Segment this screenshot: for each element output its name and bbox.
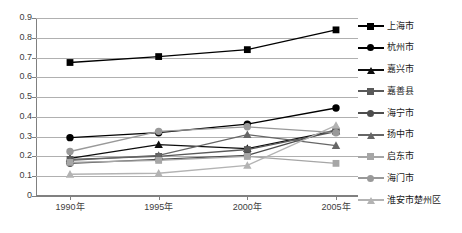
legend-label: 海门市: [387, 173, 414, 184]
legend-item-3[interactable]: 嘉兴市: [358, 64, 462, 76]
legend-marker-circle: [367, 44, 374, 51]
y-tick-label: 0.6: [2, 72, 32, 81]
data-point-marker: [66, 134, 73, 141]
y-tick-mark: [32, 196, 36, 197]
legend-label: 扬中市: [387, 129, 414, 140]
legend-label: 嘉善县: [387, 86, 414, 97]
y-tick-label: 0.8: [2, 33, 32, 42]
x-axis-tick-labels: 1990年1995年2000年2005年: [36, 200, 358, 216]
legend-item-5[interactable]: 海宁市: [358, 107, 462, 119]
data-point-marker: [244, 123, 251, 130]
legend-swatch: [358, 20, 384, 32]
series-3: [66, 127, 340, 162]
series-plot: [36, 18, 358, 196]
legend-label: 启东市: [387, 151, 414, 162]
legend-item-1[interactable]: 上海市: [358, 20, 462, 32]
y-tick-label: 0.3: [2, 132, 32, 141]
data-point-marker: [155, 157, 162, 164]
legend-marker-triangle: [367, 132, 375, 139]
legend-swatch: [358, 42, 384, 54]
legend-swatch: [358, 129, 384, 141]
y-tick-label: 0.5: [2, 92, 32, 101]
legend-item-2[interactable]: 杭州市: [358, 42, 462, 54]
legend-marker-circle: [367, 110, 374, 117]
legend-marker-circle: [367, 175, 374, 182]
legend-item-9[interactable]: 淮安市楚州区: [358, 194, 462, 206]
data-point-marker: [332, 121, 340, 129]
series-line: [70, 30, 336, 63]
data-point-marker: [67, 159, 74, 166]
legend-item-4[interactable]: 嘉善县: [358, 85, 462, 97]
y-tick-label: 0.9: [2, 13, 32, 22]
x-tick-label: 1995年: [129, 202, 189, 212]
series-7: [67, 153, 340, 167]
series-line: [70, 125, 336, 174]
x-tick-label: 2000年: [217, 202, 277, 212]
data-point-marker: [244, 46, 251, 53]
data-point-marker: [243, 130, 251, 138]
legend-swatch: [358, 85, 384, 97]
data-point-marker: [155, 53, 162, 60]
series-line: [70, 108, 336, 138]
legend-label: 嘉兴市: [387, 64, 414, 75]
series-1: [67, 26, 340, 65]
legend-marker-square: [367, 153, 374, 160]
data-point-marker: [333, 26, 340, 33]
legend-marker-square: [367, 88, 374, 95]
x-tick-label: 1990年: [40, 202, 100, 212]
legend-item-6[interactable]: 扬中市: [358, 129, 462, 141]
data-point-marker: [333, 160, 340, 167]
legend-item-7[interactable]: 启东市: [358, 151, 462, 163]
data-point-marker: [243, 161, 251, 169]
data-point-marker: [67, 59, 74, 66]
y-tick-label: 0.7: [2, 53, 32, 62]
y-axis-tick-labels: 0.90.80.70.60.50.40.30.20.10: [0, 18, 32, 196]
data-point-marker: [332, 129, 339, 136]
legend-marker-triangle: [367, 197, 375, 204]
series-2: [66, 104, 339, 141]
plot-area: [36, 18, 358, 196]
y-tick-label: 0.2: [2, 151, 32, 160]
data-point-marker: [66, 148, 73, 155]
legend: 上海市杭州市嘉兴市嘉善县海宁市扬中市启东市海门市淮安市楚州区: [358, 20, 462, 216]
legend-label: 海宁市: [387, 108, 414, 119]
legend-item-8[interactable]: 海门市: [358, 172, 462, 184]
data-point-marker: [332, 104, 339, 111]
data-point-marker: [244, 153, 251, 160]
legend-label: 上海市: [387, 21, 414, 32]
legend-swatch: [358, 194, 384, 206]
y-tick-label: 0.1: [2, 171, 32, 180]
legend-label: 淮安市楚州区: [387, 195, 441, 206]
y-tick-label: 0: [2, 191, 32, 200]
legend-marker-triangle: [367, 67, 375, 74]
y-tick-label: 0.4: [2, 112, 32, 121]
legend-marker-square: [367, 23, 374, 30]
data-point-marker: [155, 128, 162, 135]
legend-swatch: [358, 64, 384, 76]
line-chart: 0.90.80.70.60.50.40.30.20.10 1990年1995年2…: [0, 0, 462, 233]
gridline: [36, 196, 358, 197]
legend-swatch: [358, 172, 384, 184]
x-tick-label: 2005年: [306, 202, 366, 212]
legend-label: 杭州市: [387, 42, 414, 53]
legend-swatch: [358, 151, 384, 163]
legend-swatch: [358, 107, 384, 119]
